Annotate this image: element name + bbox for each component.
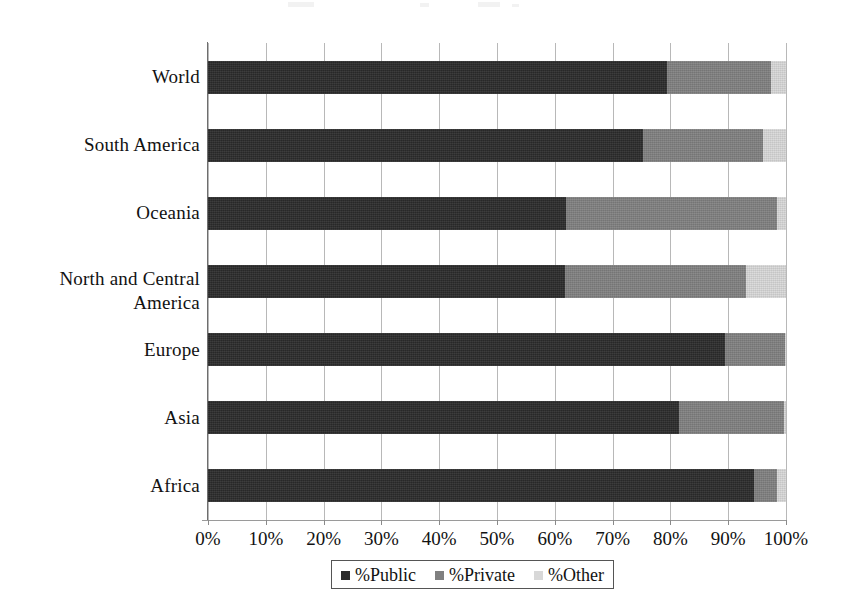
bar-row [208,469,786,502]
bar-row [208,129,786,162]
legend-item[interactable]: %Other [534,564,604,586]
x-axis-tick [266,520,267,525]
x-axis-tick [439,520,440,525]
y-axis-labels: WorldSouth AmericaOceaniaNorth and Centr… [0,43,200,520]
legend-label: %Private [449,564,515,586]
gridline [786,43,787,520]
bar-segment-other [763,129,786,162]
x-axis-tick [324,520,325,525]
y-axis-label: Europe [4,338,200,362]
y-axis-label: North and Central America [4,267,200,315]
bar-segment-other [777,469,786,502]
x-axis-labels: 0%10%20%30%40%50%60%70%80%90%100% [0,527,842,553]
legend-swatch-icon [534,571,543,580]
bar-segment-private [679,401,784,434]
legend-swatch-icon [435,571,444,580]
x-axis-tick [555,520,556,525]
bar-row [208,61,786,94]
x-axis-tick-label: 60% [537,527,572,551]
bar-segment-other [785,333,786,366]
bar-segment-public [208,469,754,502]
y-axis-label: Asia [4,406,200,430]
x-axis-tick-label: 30% [364,527,399,551]
x-axis-tick-label: 20% [306,527,341,551]
x-axis-tick-label: 80% [653,527,688,551]
legend-item[interactable]: %Public [341,564,416,586]
x-axis-tick [381,520,382,525]
bar-segment-private [565,265,745,298]
bar-segment-private [566,197,778,230]
bar-segment-other [746,265,786,298]
bar-segment-private [725,333,785,366]
bar-segment-private [643,129,763,162]
bar-segment-other [777,197,786,230]
x-axis-tick [728,520,729,525]
x-axis-tick-label: 90% [711,527,746,551]
x-axis-tick-label: 40% [422,527,457,551]
y-axis-label: World [4,65,200,89]
legend-label: %Public [355,564,416,586]
legend-label: %Other [548,564,604,586]
bar-segment-public [208,265,565,298]
x-axis-tick-label: 50% [480,527,515,551]
bar-segment-public [208,401,679,434]
x-axis-tick [786,520,787,525]
chart-legend: %Public%Private%Other [331,560,614,589]
legend-item[interactable]: %Private [435,564,515,586]
x-axis-tick-label: 0% [195,527,220,551]
bar-segment-other [784,401,786,434]
x-axis-tick-label: 100% [764,527,808,551]
y-axis-label: South America [4,133,200,157]
bar-segment-private [754,469,777,502]
y-axis-label: Africa [4,474,200,498]
bar-segment-other [771,61,786,94]
x-axis-tick [497,520,498,525]
legend-swatch-icon [341,571,350,580]
bar-segment-public [208,61,667,94]
y-axis-label: Oceania [4,201,200,225]
bar-segment-public [208,333,725,366]
x-axis-tick [613,520,614,525]
x-axis-tick-label: 70% [595,527,630,551]
x-axis-tick-label: 10% [248,527,283,551]
plot-area [208,43,786,520]
stacked-bar-chart: WorldSouth AmericaOceaniaNorth and Centr… [0,0,842,612]
bar-row [208,401,786,434]
bar-row [208,333,786,366]
x-axis-line [202,520,786,521]
bar-segment-public [208,197,566,230]
bar-row [208,197,786,230]
x-axis-tick [208,520,209,525]
bar-segment-public [208,129,643,162]
bar-row [208,265,786,298]
x-axis-tick [670,520,671,525]
bar-segment-private [667,61,771,94]
